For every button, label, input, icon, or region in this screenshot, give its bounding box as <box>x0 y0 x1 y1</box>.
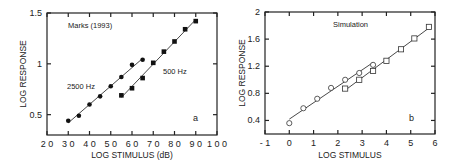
panel-a: 2 03 04 05 06 07 08 09 01 0 0 0.511.5 Ma… <box>18 8 227 160</box>
panel-b: - 10123456 0.40.81.21.62 Simulation b LO… <box>237 7 438 160</box>
x-tick-label: 8 0 <box>168 139 181 149</box>
data-point <box>140 57 145 62</box>
y-axis-label-b: LOG RESPONSE <box>237 39 247 107</box>
x-tick-label: - 1 <box>260 138 271 148</box>
y-tick-label: 0.5 <box>29 110 42 120</box>
data-point <box>108 84 113 89</box>
data-point <box>357 70 362 75</box>
y-tick-label: 1.2 <box>247 61 260 71</box>
data-point <box>384 58 389 63</box>
x-tick-label: 4 0 <box>83 139 96 149</box>
x-tick-label: 5 <box>408 138 413 148</box>
data-point <box>426 24 431 29</box>
data-point <box>357 77 362 82</box>
x-tick-label: 3 <box>360 138 365 148</box>
x-axis-label-a: LOG STIMULUS (dB) <box>91 150 173 160</box>
panel-label-b: b <box>409 113 414 123</box>
data-point <box>193 19 198 24</box>
data-point <box>151 61 156 66</box>
x-tick-label: 7 0 <box>147 139 160 149</box>
data-point <box>130 63 135 68</box>
x-tick-label: 1 0 0 <box>207 139 227 149</box>
y-tick-label: 1.5 <box>29 8 42 18</box>
x-tick-label: 9 0 <box>189 139 202 149</box>
y-tick-label: 0.4 <box>247 115 260 125</box>
data-point <box>301 106 306 111</box>
x-tick-label: 0 <box>287 138 292 148</box>
data-point <box>140 76 145 81</box>
data-point <box>119 93 124 98</box>
data-point <box>328 85 333 90</box>
data-point <box>183 27 188 32</box>
figure: 2 03 04 05 06 07 08 09 01 0 0 0.511.5 Ma… <box>0 0 455 166</box>
data-point <box>172 39 177 44</box>
data-point <box>412 36 417 41</box>
plot-frame-a <box>47 13 217 135</box>
y-tick-label: 1.6 <box>247 34 260 44</box>
data-point <box>119 75 124 80</box>
annotation-a: Marks (1993) <box>68 21 113 30</box>
x-tick-label: 3 0 <box>62 139 75 149</box>
data-point <box>370 68 375 73</box>
y-tick-label: 2 <box>255 7 260 17</box>
y-tick-label: 0.8 <box>247 88 260 98</box>
x-tick-label: 5 0 <box>104 139 117 149</box>
x-tick-label: 4 <box>384 138 389 148</box>
x-tick-label: 6 0 <box>126 139 139 149</box>
x-tick-label: 6 <box>432 138 437 148</box>
legend-label-500hz: 500 Hz <box>163 67 187 76</box>
legend-label-2500hz: 2500 Hz <box>67 82 95 91</box>
data-point <box>398 47 403 52</box>
data-point <box>162 49 167 54</box>
data-point <box>343 77 348 82</box>
data-point <box>66 118 71 123</box>
x-tick-label: 2 0 <box>41 139 54 149</box>
x-axis-label-b: LOG STIMULUS <box>318 150 382 160</box>
data-point <box>315 96 320 101</box>
data-point <box>130 86 135 91</box>
data-point <box>87 102 92 107</box>
data-point <box>77 113 82 118</box>
y-tick-label: 1 <box>37 59 42 69</box>
data-point <box>343 86 348 91</box>
annotation-b: Simulation <box>333 20 368 29</box>
data-point <box>287 121 292 126</box>
x-tick-label: 1 <box>311 138 316 148</box>
x-tick-label: 2 <box>335 138 340 148</box>
data-point <box>98 94 103 99</box>
data-point <box>370 62 375 67</box>
y-axis-label-a: LOG RESPONSE <box>18 40 28 108</box>
panel-label-a: a <box>193 113 198 123</box>
